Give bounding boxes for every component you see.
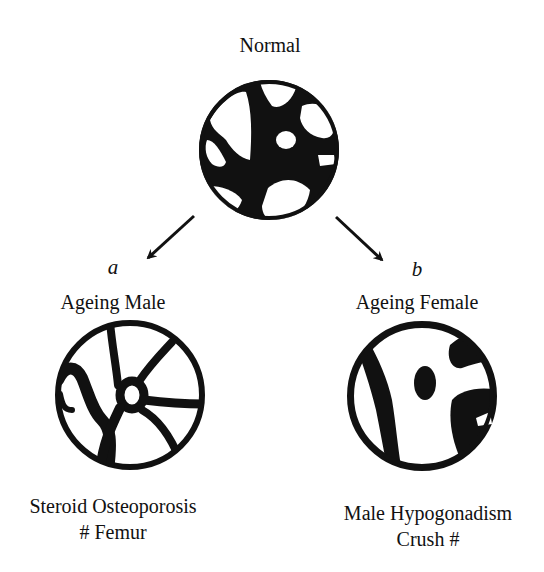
crush-fracture-caption: Crush # — [397, 528, 460, 550]
arrow-to-a — [148, 216, 194, 258]
steroid-osteoporosis-caption: Steroid Osteoporosis — [29, 495, 196, 517]
branch-a-letter: a — [108, 256, 119, 278]
diagram-graphics — [0, 0, 544, 572]
ageing-male-bone-section — [58, 322, 204, 470]
arrow-to-b — [336, 217, 382, 260]
male-hypogonadism-caption: Male Hypogonadism — [344, 502, 512, 524]
femur-fracture-caption: # Femur — [79, 521, 146, 543]
ageing-female-bone-section — [350, 324, 500, 472]
ageing-female-label: Ageing Female — [356, 291, 479, 313]
branch-b-letter: b — [412, 258, 423, 280]
normal-bone-section — [199, 80, 339, 224]
ageing-male-label: Ageing Male — [61, 291, 166, 313]
